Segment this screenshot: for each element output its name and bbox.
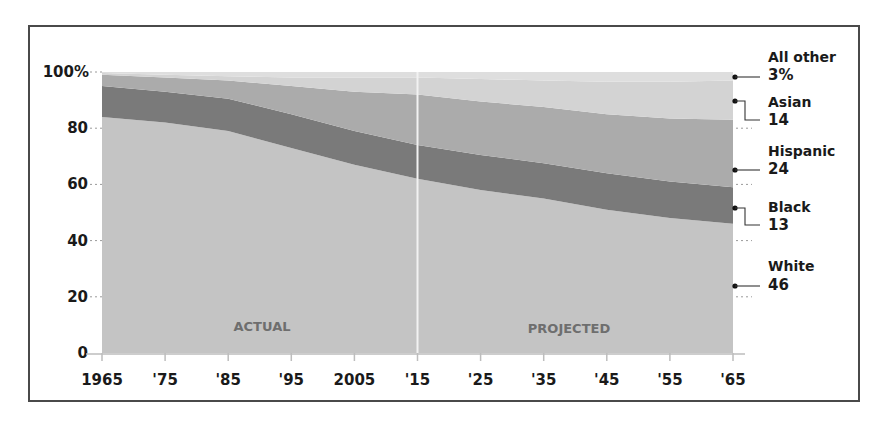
x-tick-label: '75 bbox=[152, 371, 177, 389]
legend-item-white: White46 bbox=[732, 258, 814, 294]
y-tick-label: 20 bbox=[67, 288, 88, 306]
x-tick-label: '85 bbox=[215, 371, 240, 389]
legend-label: Hispanic bbox=[768, 143, 835, 159]
legend-label: All other bbox=[768, 49, 836, 65]
legend-leader-line bbox=[735, 208, 760, 225]
x-tick-label: 1965 bbox=[81, 371, 123, 389]
actual-label: ACTUAL bbox=[234, 319, 291, 334]
x-tick-label: 2005 bbox=[334, 371, 376, 389]
legend-value: 3% bbox=[768, 66, 793, 84]
legend-value: 46 bbox=[768, 276, 789, 294]
legend-label: Black bbox=[768, 199, 811, 215]
y-tick-label: 40 bbox=[67, 232, 88, 250]
x-tick-label: '25 bbox=[468, 371, 493, 389]
legend-label: Asian bbox=[768, 94, 811, 110]
x-tick-label: '45 bbox=[594, 371, 619, 389]
legend-item-black: Black13 bbox=[732, 199, 811, 234]
x-tick-label: '35 bbox=[531, 371, 556, 389]
y-axis: 020406080100% bbox=[43, 63, 102, 362]
x-axis: 1965'75'85'952005'15'25'35'45'55'65 bbox=[81, 353, 746, 389]
legend-leader-line bbox=[735, 101, 760, 120]
x-tick-label: '65 bbox=[720, 371, 745, 389]
y-tick-label: 80 bbox=[67, 119, 88, 137]
legend-value: 24 bbox=[768, 160, 789, 178]
y-tick-label: 0 bbox=[78, 344, 88, 362]
x-tick-label: '55 bbox=[657, 371, 682, 389]
legend: All other3%Asian14Hispanic24Black13White… bbox=[732, 49, 836, 297]
legend-label: White bbox=[768, 258, 814, 274]
y-tick-label: 100% bbox=[43, 63, 89, 81]
legend-item-asian: Asian14 bbox=[732, 94, 811, 129]
legend-item-all-other: All other3% bbox=[732, 49, 836, 84]
x-tick-label: '15 bbox=[405, 371, 430, 389]
projected-label: PROJECTED bbox=[528, 321, 611, 336]
x-tick-label: '95 bbox=[279, 371, 304, 389]
legend-value: 14 bbox=[768, 111, 789, 129]
legend-value: 13 bbox=[768, 216, 789, 234]
stacked-area-chart: 020406080100% 1965'75'85'952005'15'25'35… bbox=[0, 0, 887, 422]
legend-item-hispanic: Hispanic24 bbox=[732, 143, 835, 178]
y-tick-label: 60 bbox=[67, 175, 88, 193]
